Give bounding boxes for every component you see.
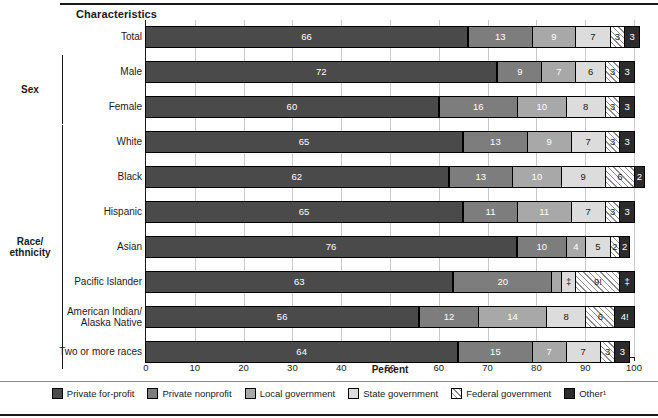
bar-segment[interactable]: 62 — [145, 166, 449, 188]
bar-segment[interactable]: 13 — [463, 131, 527, 153]
row-label: Total — [12, 31, 142, 42]
legend-swatch-private-for-profit — [52, 388, 63, 399]
bar-segment[interactable]: 3 — [614, 341, 630, 363]
row-label-line: Two or more races — [12, 346, 142, 357]
bar-segment[interactable]: 14 — [478, 306, 547, 328]
row-label-line: Female — [12, 101, 142, 112]
bar-row[interactable]: 7297633 — [146, 61, 634, 83]
bar-row[interactable]: 65139733 — [146, 131, 634, 153]
row-label-line: Total — [12, 31, 142, 42]
bar-row[interactable]: 621310962 — [146, 166, 634, 188]
top-rule — [60, 3, 658, 5]
bar-segment[interactable]: 6 — [605, 166, 635, 188]
bar-row[interactable]: 76104522 — [146, 236, 634, 258]
row-label: American Indian/Alaska Native — [12, 306, 142, 328]
row-label-line: Hispanic — [12, 206, 142, 217]
bar-segment[interactable]: ‡ — [561, 271, 577, 293]
legend-item-private-for-profit[interactable]: Private for-profit — [52, 388, 135, 399]
bar-segment[interactable]: 9 — [532, 26, 577, 48]
bar-segment[interactable]: 10 — [512, 166, 562, 188]
bar-segment[interactable]: 3 — [619, 201, 635, 223]
bar-row[interactable]: 6320‡9!‡ — [146, 271, 634, 293]
bar-segment[interactable]: 3 — [619, 96, 635, 118]
bar-segment[interactable]: 76 — [145, 236, 517, 258]
bar-row[interactable]: 64157733 — [146, 341, 634, 363]
bar-segment[interactable]: 15 — [458, 341, 532, 363]
legend-top-rule — [0, 381, 658, 382]
legend-item-private-nonprofit[interactable]: Private nonprofit — [147, 388, 231, 399]
bar-segment[interactable]: 4 — [566, 236, 587, 258]
bar-segment[interactable]: 64 — [145, 341, 458, 363]
bar-segment[interactable]: 20 — [453, 271, 552, 293]
bar-segment[interactable]: 2 — [619, 236, 630, 258]
bar-segment[interactable]: 65 — [145, 131, 463, 153]
bar-segment[interactable]: 5 — [585, 236, 610, 258]
row-label: Two or more races — [12, 346, 142, 357]
bar-segment[interactable]: 3 — [600, 341, 616, 363]
bar-segment[interactable]: 63 — [145, 271, 453, 293]
bar-segment[interactable]: 11 — [463, 201, 518, 223]
bar-segment[interactable]: 7 — [541, 61, 576, 83]
bar-segment[interactable]: 7 — [571, 131, 606, 153]
row-label-line: Alaska Native — [12, 317, 142, 328]
legend-swatch-local-government — [245, 388, 256, 399]
bar-segment[interactable]: 60 — [145, 96, 439, 118]
bar-segment[interactable]: 3 — [610, 26, 626, 48]
row-label: Black — [12, 171, 142, 182]
bar-segment[interactable]: 66 — [145, 26, 468, 48]
bar-segment[interactable]: ‡ — [619, 271, 635, 293]
bar-row[interactable]: 561214864! — [146, 306, 634, 328]
bar-segment[interactable]: 9 — [527, 131, 572, 153]
legend-bottom-rule — [0, 414, 658, 416]
bar-segment[interactable]: 9 — [561, 166, 606, 188]
bar-segment[interactable]: 3 — [619, 131, 635, 153]
group-bracket-sex — [62, 55, 63, 124]
legend-swatch-private-nonprofit — [147, 388, 158, 399]
bar-segment[interactable]: 7 — [571, 201, 606, 223]
legend-swatch-other — [564, 388, 575, 399]
group-label-race-ethnicity: Race/ethnicity — [2, 236, 58, 258]
bar-segment[interactable]: 6 — [575, 61, 605, 83]
legend-item-other[interactable]: Other¹ — [564, 388, 606, 399]
bar-row[interactable]: 601610833 — [146, 96, 634, 118]
bar-segment[interactable]: 10 — [517, 96, 567, 118]
bar-segment[interactable]: 16 — [439, 96, 518, 118]
bar-segment[interactable]: 3 — [619, 61, 635, 83]
bar-segment[interactable]: 4! — [614, 306, 635, 328]
bar-row[interactable]: 651111733 — [146, 201, 634, 223]
bar-segment[interactable]: 3 — [605, 131, 621, 153]
bar-segment[interactable]: 3 — [605, 61, 621, 83]
bar-segment[interactable]: 9! — [575, 271, 620, 293]
bar-segment[interactable]: 65 — [145, 201, 463, 223]
legend-item-state-government[interactable]: State government — [348, 388, 438, 399]
bar-segment[interactable]: 7 — [575, 26, 610, 48]
bar-segment[interactable]: 72 — [145, 61, 497, 83]
bar-segment[interactable]: 9 — [497, 61, 542, 83]
bar-row[interactable]: 66139733 — [146, 26, 634, 48]
bar-segment[interactable]: 56 — [145, 306, 419, 328]
row-label: Female — [12, 101, 142, 112]
bar-segment[interactable]: 3 — [605, 201, 621, 223]
bar-segment[interactable]: 7 — [566, 341, 601, 363]
bar-segment[interactable]: 10 — [517, 236, 567, 258]
bar-segment[interactable]: 3 — [624, 26, 640, 48]
legend-label-local-government: Local government — [260, 388, 336, 399]
bar-segment[interactable]: 8 — [546, 306, 586, 328]
bar-segment[interactable]: 6 — [585, 306, 615, 328]
bar-segment[interactable]: 3 — [605, 96, 621, 118]
row-label: Pacific Islander — [12, 276, 142, 287]
legend: Private for-profitPrivate nonprofitLocal… — [0, 388, 658, 399]
x-axis-tick — [634, 357, 635, 361]
bar-segment[interactable]: 7 — [532, 341, 567, 363]
legend-item-local-government[interactable]: Local government — [245, 388, 336, 399]
bar-segment[interactable]: 13 — [449, 166, 513, 188]
bar-segment[interactable]: 8 — [566, 96, 606, 118]
bar-segment[interactable]: 12 — [419, 306, 479, 328]
row-label: Male — [12, 66, 142, 77]
legend-item-federal-government[interactable]: Federal government — [451, 388, 551, 399]
bar-segment[interactable]: 11 — [517, 201, 572, 223]
bar-segment[interactable]: 2 — [634, 166, 645, 188]
bar-segment[interactable]: 13 — [468, 26, 532, 48]
group-label-line: Sex — [2, 84, 58, 95]
row-label-line: Male — [12, 66, 142, 77]
